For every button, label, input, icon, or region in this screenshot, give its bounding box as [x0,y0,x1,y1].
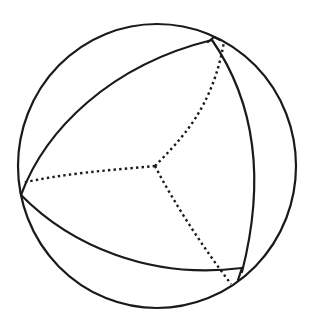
dotted-arc-to-left [22,166,155,183]
spherical-triangle-diagram [0,0,312,324]
dotted-arc-to-top [155,42,224,166]
triangle-edge-right [212,40,254,272]
diagram-canvas [0,0,312,324]
dotted-arc-to-bottom [155,166,231,284]
triangle-edge-bottom [21,195,242,270]
triangle-edge-top [21,40,212,195]
